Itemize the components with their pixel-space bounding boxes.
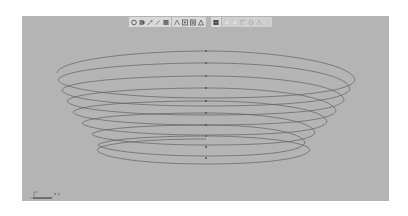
helix-spiral-curve[interactable] (0, 0, 408, 216)
axis-gizmo-label: x y (54, 191, 60, 196)
